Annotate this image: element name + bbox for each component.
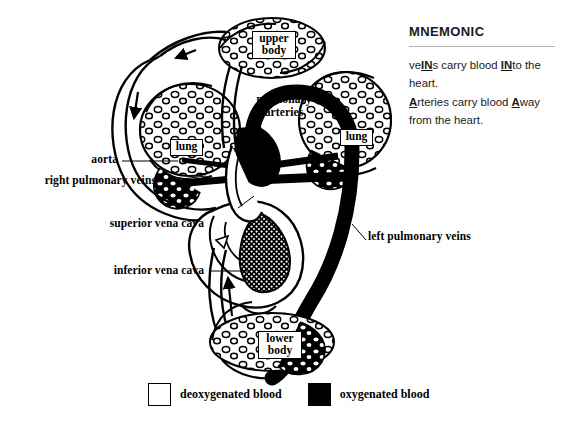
label-right-pulmonary-veins: right pulmonary veins [8,174,156,187]
mnemonic-arteries-a: rteries carry blood [417,96,511,108]
legend-label-oxygenated: oxygenated blood [340,387,430,402]
label-lower-body-line1: lower [262,333,298,345]
mnemonic-line-veins: veINs carry blood INto the heart. [409,56,555,93]
mnemonic-veins-em2: IN [501,59,512,71]
label-box-upper-body: upper body [252,31,296,59]
label-lower-body-line2: body [262,345,298,357]
label-pulmonary-arteries-line1: pulmonary [236,93,332,106]
mnemonic-arteries-em1: A [409,96,417,108]
legend-swatch-oxygenated [308,383,331,406]
mnemonic-divider [409,46,555,47]
circulation-diagram-page: aorta right pulmonary veins superior ven… [0,0,561,438]
mnemonic-veins-a: ve [409,59,421,71]
mnemonic-body: veINs carry blood INto the heart. Arteri… [409,56,555,130]
legend: deoxygenated blood oxygenated blood [148,383,429,406]
legend-swatch-deoxygenated [148,383,171,406]
label-aorta: aorta [40,153,118,166]
label-upper-body-line1: upper [256,33,292,45]
legend-entry-deoxygenated: deoxygenated blood [148,383,282,406]
mnemonic-panel: MNEMONIC veINs carry blood INto the hear… [409,24,555,130]
label-left-pulmonary-veins: left pulmonary veins [368,230,471,243]
mnemonic-veins-em1: IN [421,59,432,71]
mnemonic-arteries-em2: A [512,96,520,108]
label-box-lung-right: lung [340,129,373,146]
label-pulmonary-arteries: pulmonary arteries [236,93,332,119]
label-superior-vena-cava: superior vena cava [70,217,204,230]
label-inferior-vena-cava: inferior vena cava [70,264,204,277]
mnemonic-veins-b: s carry blood [432,59,500,71]
legend-label-deoxygenated: deoxygenated blood [180,387,282,402]
mnemonic-line-arteries: Arteries carry blood Away from the heart… [409,93,555,130]
label-upper-body-line2: body [256,45,292,57]
label-box-lower-body: lower body [258,331,302,359]
label-pulmonary-arteries-line2: arteries [236,106,332,119]
mnemonic-heading: MNEMONIC [409,24,555,39]
label-box-lung-left: lung [170,139,203,156]
legend-entry-oxygenated: oxygenated blood [308,383,430,406]
